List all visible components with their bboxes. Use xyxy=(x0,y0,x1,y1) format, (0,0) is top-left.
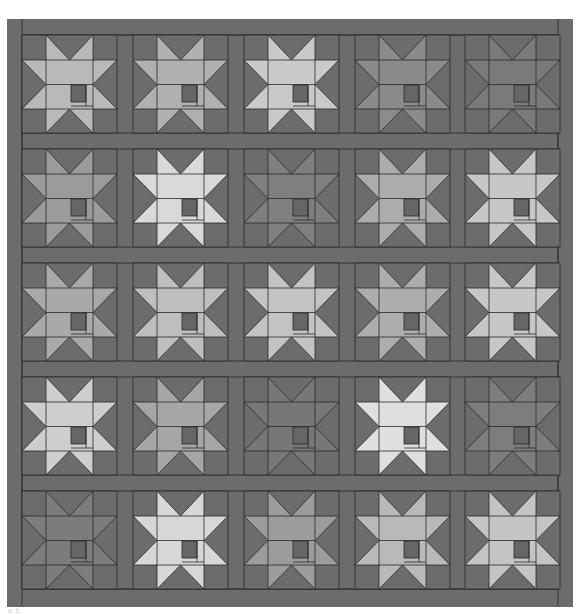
center-inset-square xyxy=(71,313,86,330)
center-inset-square xyxy=(514,85,529,102)
center-inset-square xyxy=(404,85,419,102)
center-inset-square xyxy=(514,313,529,330)
star-block xyxy=(133,491,228,589)
star-block xyxy=(22,35,117,133)
star-block xyxy=(465,35,560,133)
star-block xyxy=(244,491,339,589)
star-block xyxy=(133,377,228,475)
star-block xyxy=(133,35,228,133)
center-inset-square xyxy=(404,541,419,558)
star-block xyxy=(465,491,560,589)
star-block xyxy=(244,377,339,475)
star-block xyxy=(22,491,117,589)
center-inset-square xyxy=(293,199,308,216)
star-block xyxy=(244,35,339,133)
center-inset-square xyxy=(182,85,197,102)
star-block xyxy=(355,263,450,361)
center-inset-square xyxy=(514,427,529,444)
center-inset-square xyxy=(404,313,419,330)
center-inset-square xyxy=(182,313,197,330)
star-block xyxy=(465,377,560,475)
caption-text: a b xyxy=(8,607,21,614)
star-block xyxy=(355,35,450,133)
star-block xyxy=(355,491,450,589)
center-inset-square xyxy=(182,427,197,444)
center-inset-square xyxy=(404,427,419,444)
center-inset-square xyxy=(71,541,86,558)
center-inset-square xyxy=(293,541,308,558)
star-block xyxy=(465,263,560,361)
star-block xyxy=(133,149,228,247)
center-inset-square xyxy=(182,541,197,558)
star-block xyxy=(244,149,339,247)
center-inset-square xyxy=(182,199,197,216)
star-block xyxy=(244,263,339,361)
quilt-image xyxy=(0,0,581,614)
center-inset-square xyxy=(514,541,529,558)
center-inset-square xyxy=(404,199,419,216)
star-block xyxy=(355,377,450,475)
star-block xyxy=(22,149,117,247)
center-inset-square xyxy=(293,85,308,102)
star-block xyxy=(465,149,560,247)
star-block xyxy=(355,149,450,247)
center-inset-square xyxy=(293,313,308,330)
star-block xyxy=(22,377,117,475)
star-block xyxy=(22,263,117,361)
center-inset-square xyxy=(71,427,86,444)
center-inset-square xyxy=(71,85,86,102)
center-inset-square xyxy=(293,427,308,444)
star-block xyxy=(133,263,228,361)
center-inset-square xyxy=(514,199,529,216)
center-inset-square xyxy=(71,199,86,216)
